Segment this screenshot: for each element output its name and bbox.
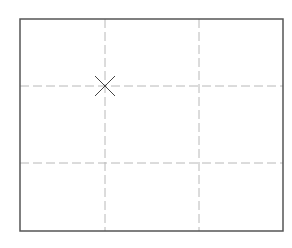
frame-border [20,19,283,231]
grid-lines [20,19,283,231]
grid-diagram [0,0,292,248]
